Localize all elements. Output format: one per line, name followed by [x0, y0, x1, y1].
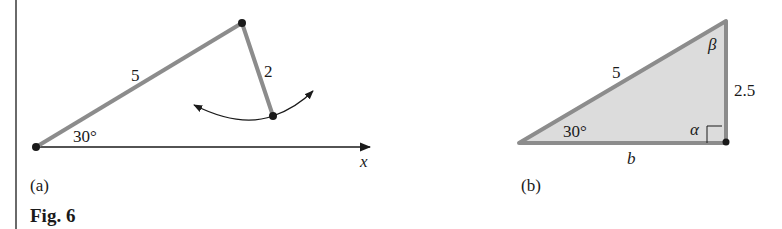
vertical-side-label: 2.5	[734, 81, 755, 100]
angle-30-label: 30°	[563, 122, 587, 141]
angle-alpha-label: α	[690, 120, 700, 139]
end-point	[269, 112, 277, 120]
figure-canvas: 5 2 30° x (a) 5 2.5 b 30° β α (b) Fig. 6	[0, 0, 782, 229]
joint-point	[238, 19, 246, 27]
long-arm-label: 5	[131, 66, 140, 85]
origin-point	[32, 143, 40, 151]
long-arm-segment	[36, 23, 242, 147]
angle-label: 30°	[73, 127, 97, 146]
x-axis-label: x	[359, 152, 368, 171]
corner-point	[723, 139, 730, 146]
panel-b: 5 2.5 b 30° β α (b)	[519, 21, 755, 195]
panel-b-label: (b)	[521, 176, 541, 195]
short-arm-label: 2	[264, 62, 273, 81]
panel-a: 5 2 30° x (a)	[30, 19, 370, 195]
base-label: b	[627, 149, 636, 168]
swing-arc-left	[194, 105, 273, 120]
angle-beta-label: β	[707, 35, 717, 54]
swing-arc-right	[273, 91, 313, 116]
hypotenuse-label: 5	[612, 63, 621, 82]
panel-a-label: (a)	[30, 176, 49, 195]
figure-caption: Fig. 6	[30, 205, 75, 226]
